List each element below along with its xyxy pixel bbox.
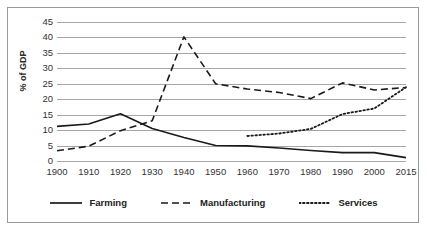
x-tick-label: 2015 — [388, 166, 424, 177]
x-tick-label: 1990 — [325, 166, 361, 177]
legend-item-farming[interactable]: Farming — [50, 197, 126, 208]
chart-container: % of GDP 051015202530354045 190019101920… — [7, 7, 419, 223]
series-line-manufacturing — [57, 37, 406, 151]
legend-item-manufacturing[interactable]: Manufacturing — [161, 197, 265, 208]
y-tick-label: 10 — [27, 125, 53, 135]
series-group — [57, 22, 406, 161]
legend-label: Services — [338, 197, 377, 208]
x-tick-label: 1920 — [102, 166, 138, 177]
y-tick-label: 20 — [27, 94, 53, 104]
x-tick-label: 1970 — [261, 166, 297, 177]
y-tick-label: 5 — [27, 141, 53, 151]
y-tick-label: 30 — [27, 63, 53, 73]
y-tick-label: 15 — [27, 110, 53, 120]
x-tick-label: 1980 — [293, 166, 329, 177]
chart-plot-wrapper: % of GDP 051015202530354045 190019101920… — [8, 8, 420, 224]
y-tick-label: 0 — [27, 156, 53, 166]
legend-label: Manufacturing — [200, 197, 265, 208]
x-tick-label: 2000 — [356, 166, 392, 177]
solid-line-swatch — [50, 198, 82, 207]
y-tick-label: 45 — [27, 17, 53, 27]
y-tick-label: 25 — [27, 79, 53, 89]
dotted-line-swatch — [299, 198, 331, 207]
x-tick-label: 1950 — [198, 166, 234, 177]
chart-legend: FarmingManufacturingServices — [8, 192, 420, 212]
x-tick-label: 1900 — [39, 166, 75, 177]
series-line-services — [247, 87, 406, 136]
gridline — [57, 161, 406, 162]
x-tick-label: 1910 — [71, 166, 107, 177]
plot-area: 051015202530354045 190019101920193019401… — [57, 22, 406, 161]
x-tick-label: 1960 — [229, 166, 265, 177]
y-tick-label: 35 — [27, 48, 53, 58]
y-tick-label: 40 — [27, 32, 53, 42]
x-tick-label: 1930 — [134, 166, 170, 177]
dashed-line-swatch — [161, 198, 193, 207]
legend-label: Farming — [89, 197, 126, 208]
legend-item-services[interactable]: Services — [299, 197, 377, 208]
x-tick-label: 1940 — [166, 166, 202, 177]
